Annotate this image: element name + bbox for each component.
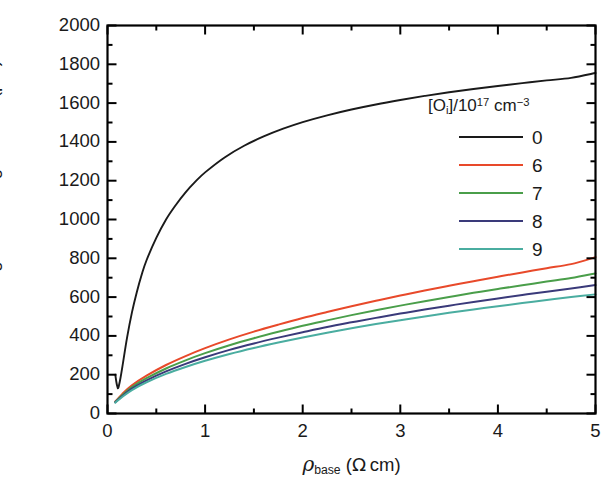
legend-swatch-8 [459, 220, 523, 222]
x-tick-label: 0 [88, 422, 128, 441]
x-tick-label: 4 [478, 422, 518, 441]
y-tick-label: 0 [38, 404, 100, 423]
y-tick-label: 1600 [38, 94, 100, 113]
legend-label-9: 9 [532, 240, 543, 259]
legend-title-units: cm [489, 96, 516, 115]
y-tick-label: 1200 [38, 171, 100, 190]
y-tick-label: 1000 [38, 210, 100, 229]
y-tick-label: 400 [38, 326, 100, 345]
x-axis-label-subscript: base [314, 463, 340, 477]
y-tick-label: 2000 [38, 16, 100, 35]
rho-symbol: ρ [302, 452, 314, 476]
legend: [Oi]/1017 cm−3 06789 [424, 96, 600, 263]
x-tick-label: 1 [185, 422, 225, 441]
y-tick-label: 800 [38, 249, 100, 268]
series-line-6 [115, 257, 595, 401]
legend-title-bracket-open: [O [428, 96, 446, 115]
x-tick-label: 2 [283, 422, 323, 441]
x-axis-label: ρbase (Ω cm) [107, 452, 596, 477]
x-tick-label: 5 [576, 422, 612, 441]
series-line-9 [115, 294, 595, 402]
legend-swatch-0 [459, 136, 523, 138]
y-tick-label: 1400 [38, 132, 100, 151]
series-line-7 [115, 273, 595, 401]
legend-entries: 06789 [424, 123, 600, 263]
legend-row-7: 7 [424, 179, 600, 207]
legend-label-7: 7 [532, 184, 543, 203]
legend-label-0: 0 [532, 128, 543, 147]
legend-label-6: 6 [532, 156, 543, 175]
legend-title-bracket-close: ]/10 [448, 96, 476, 115]
legend-title: [Oi]/1017 cm−3 [424, 96, 600, 116]
legend-row-9: 9 [424, 235, 600, 263]
figure-container: Diffusion length after degradation (μm) … [0, 0, 612, 499]
legend-swatch-9 [459, 248, 523, 250]
x-tick-label: 3 [380, 422, 420, 441]
y-tick-label: 600 [38, 288, 100, 307]
legend-row-0: 0 [424, 123, 600, 151]
x-axis-label-units: (Ω cm) [346, 454, 401, 475]
y-tick-label: 200 [38, 365, 100, 384]
y-axis-label-text: Diffusion length after degradation (μm) [0, 60, 2, 372]
y-axis-label: Diffusion length after degradation (μm) [0, 0, 3, 436]
y-tick-label: 1800 [38, 55, 100, 74]
legend-swatch-7 [459, 192, 523, 194]
legend-title-exponent: 17 [477, 96, 489, 108]
legend-row-8: 8 [424, 207, 600, 235]
legend-swatch-6 [459, 164, 523, 166]
legend-row-6: 6 [424, 151, 600, 179]
legend-label-8: 8 [532, 212, 543, 231]
legend-title-units-exponent: −3 [517, 96, 530, 108]
